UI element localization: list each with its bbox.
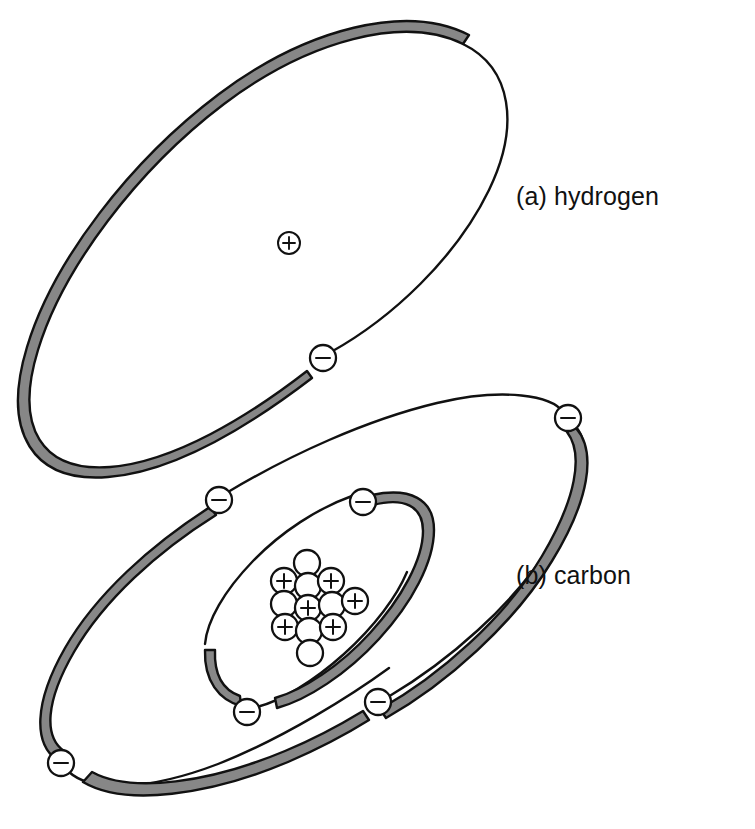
electron-particle	[234, 699, 260, 725]
neutron-particle	[297, 640, 323, 666]
atomic-structure-figure: (a) hydrogen	[0, 0, 755, 829]
caption-hydrogen: (a) hydrogen	[516, 182, 659, 210]
electron-particle	[365, 689, 391, 715]
electron-particle	[48, 750, 74, 776]
electron-particle	[310, 345, 336, 371]
electron-particle	[350, 489, 376, 515]
electron-particle	[555, 405, 581, 431]
electron-particle	[206, 487, 232, 513]
hydrogen-nucleus	[278, 232, 300, 254]
caption-carbon: (b) carbon	[516, 561, 631, 589]
atom-diagram-canvas: (a) hydrogen	[0, 0, 755, 829]
